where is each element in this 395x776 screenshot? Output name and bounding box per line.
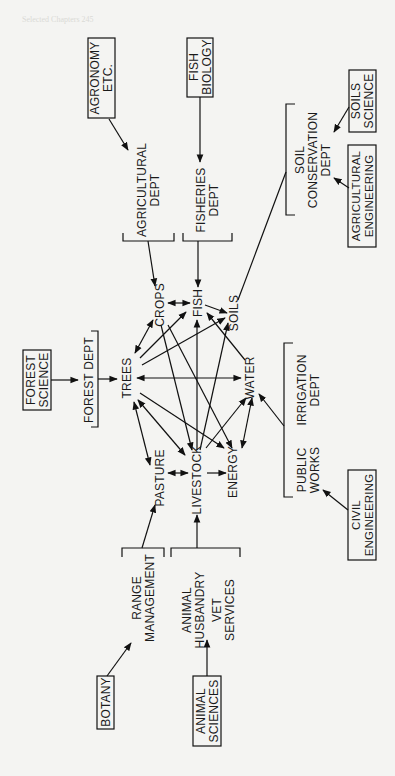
label-animal-sciences: ANIMAL SCIENCES <box>194 680 221 743</box>
svg-text:DEPT: DEPT <box>308 373 322 406</box>
svg-text:FISH: FISH <box>187 53 201 81</box>
svg-text:SOIL: SOIL <box>293 146 307 174</box>
svg-text:IRRIGATION: IRRIGATION <box>295 354 309 425</box>
node-energy: ENERGY <box>226 446 240 498</box>
label-public-works: PUBLIC WORKS <box>295 447 322 493</box>
svg-text:RANGE: RANGE <box>130 576 144 620</box>
svg-text:SCIENCE: SCIENCE <box>37 353 51 408</box>
svg-text:ENERGY: ENERGY <box>226 446 240 498</box>
label-forest-dept: FOREST DEPT <box>82 337 96 423</box>
label-botany: BOTANY <box>99 677 113 727</box>
svg-text:SCIENCE: SCIENCE <box>362 74 376 129</box>
svg-text:FISH: FISH <box>191 289 205 317</box>
svg-text:DEPT: DEPT <box>319 143 333 176</box>
svg-text:CROPS: CROPS <box>153 283 167 327</box>
svg-text:SOILS: SOILS <box>227 295 241 331</box>
svg-text:WATER: WATER <box>243 356 257 399</box>
node-soils: SOILS <box>227 295 241 331</box>
svg-text:ETC.: ETC. <box>101 64 115 92</box>
svg-text:ENGINEERING: ENGINEERING <box>363 155 375 238</box>
bracket-animal-husbandry <box>171 548 240 557</box>
svg-text:PUBLIC: PUBLIC <box>295 448 309 493</box>
svg-text:FOREST DEPT: FOREST DEPT <box>82 337 96 423</box>
label-agricultural-engineering: AGRICULTURAL ENGINEERING <box>350 150 375 241</box>
svg-text:ANIMAL: ANIMAL <box>180 587 194 633</box>
svg-text:SOILS: SOILS <box>349 83 363 119</box>
svg-text:FOREST: FOREST <box>24 355 38 405</box>
node-pasture: PASTURE <box>153 449 167 506</box>
svg-text:CONSERVATION: CONSERVATION <box>306 112 320 208</box>
resource-management-diagram: AGRONOMY ETC. FISH BIOLOGY SOILS SCIENCE… <box>0 0 395 776</box>
svg-text:TREES: TREES <box>120 357 134 398</box>
svg-text:VET: VET <box>210 598 224 622</box>
bracket-irrigation-public <box>284 343 293 497</box>
label-irrigation-dept: IRRIGATION DEPT <box>295 354 322 425</box>
svg-text:AGRICULTURAL: AGRICULTURAL <box>135 143 149 237</box>
svg-text:AGRONOMY: AGRONOMY <box>88 42 102 115</box>
svg-text:DEPT: DEPT <box>148 173 162 206</box>
svg-text:AGRICULTURAL: AGRICULTURAL <box>350 150 362 241</box>
label-fisheries-dept: FISHERIES DEPT <box>194 167 221 232</box>
label-soil-conservation-dept: SOIL CONSERVATION DEPT <box>293 112 333 208</box>
node-fish: FISH <box>191 289 205 317</box>
svg-text:DEPT: DEPT <box>207 183 221 216</box>
svg-text:SCIENCES: SCIENCES <box>207 680 221 743</box>
svg-text:BOTANY: BOTANY <box>99 677 113 727</box>
svg-text:FISHERIES: FISHERIES <box>194 167 208 232</box>
svg-text:SERVICES: SERVICES <box>223 579 237 641</box>
book-page: Selected Chapters 245 <box>0 0 395 776</box>
bracket-fisheries-dept <box>183 233 232 241</box>
label-animal-husbandry-vet: ANIMAL HUSBANDRY VET SERVICES <box>180 572 237 649</box>
label-agricultural-dept: AGRICULTURAL DEPT <box>135 143 162 237</box>
svg-text:PASTURE: PASTURE <box>153 449 167 506</box>
svg-text:MANAGEMENT: MANAGEMENT <box>143 554 157 642</box>
svg-text:LIVESTOCK: LIVESTOCK <box>190 446 204 515</box>
node-crops: CROPS <box>153 283 167 327</box>
node-water: WATER <box>243 356 257 399</box>
svg-text:HUSBANDRY: HUSBANDRY <box>193 572 207 649</box>
node-trees: TREES <box>120 357 134 398</box>
label-forest-science: FOREST SCIENCE <box>24 353 51 408</box>
svg-text:ENGINEERING: ENGINEERING <box>363 474 375 557</box>
svg-text:BIOLOGY: BIOLOGY <box>200 39 214 94</box>
label-range-management: RANGE MANAGEMENT <box>130 554 157 642</box>
svg-text:WORKS: WORKS <box>308 447 322 493</box>
node-livestock: LIVESTOCK <box>190 446 204 515</box>
svg-text:CIVIL: CIVIL <box>350 500 362 530</box>
svg-text:ANIMAL: ANIMAL <box>194 688 208 734</box>
